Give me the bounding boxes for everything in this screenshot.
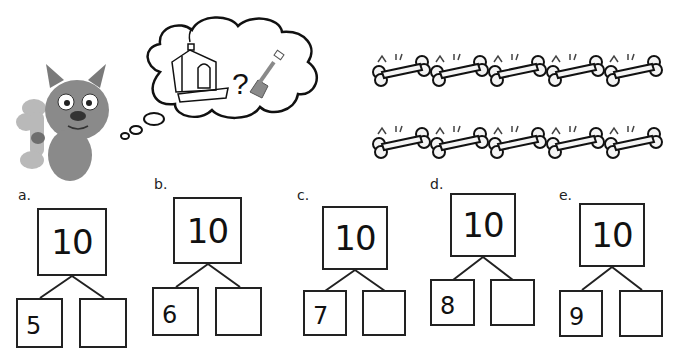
- part-box-1: 9: [559, 290, 603, 337]
- part-box-2-answer[interactable]: [619, 290, 663, 337]
